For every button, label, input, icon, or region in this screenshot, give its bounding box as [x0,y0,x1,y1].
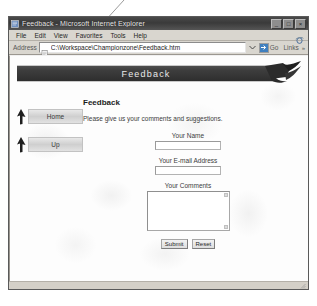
go-arrow-icon [259,43,269,53]
site-banner: Feedback [15,60,303,88]
email-field-label: Your E-mail Address [159,157,218,164]
feedback-form: Your Name Your E-mail Address Your Comme… [83,132,303,249]
close-button[interactable]: × [295,19,306,29]
window-title: Feedback - Microsoft Internet Explorer [22,20,271,27]
reset-button[interactable]: Reset [192,239,216,249]
nav-plate-up: Up [28,137,83,152]
nav-label-home: Home [47,113,64,120]
field-group-email: Your E-mail Address [155,157,221,175]
status-bar [9,281,308,289]
chevron-right-icon[interactable]: » [302,45,305,51]
address-label: Address [11,44,37,51]
page-title: Feedback [83,98,303,107]
links-label[interactable]: Links [283,44,298,51]
nav-button-up[interactable]: Up [15,136,83,153]
ie-document-icon [11,20,19,28]
window-controls: _ □ × [271,19,306,29]
menu-item-edit[interactable]: Edit [30,32,49,39]
submit-button[interactable]: Submit [161,239,188,249]
menu-item-tools[interactable]: Tools [106,32,129,39]
nav-plate-home: Home [28,109,83,124]
menu-bar: File Edit View Favorites Tools Help [9,30,308,41]
maximize-button[interactable]: □ [283,19,294,29]
email-input[interactable] [155,166,221,175]
address-bar: Address C:\Workspace\Championzone\Feedba… [9,41,308,55]
nav-label-up: Up [51,141,59,148]
nav-button-home[interactable]: Home [15,108,83,125]
nav-column: Home Up [15,94,83,164]
menu-item-view[interactable]: View [50,32,72,39]
page-document-icon [41,44,49,52]
minimize-icon: _ [275,21,278,27]
browser-window: Feedback - Microsoft Internet Explorer _… [8,16,309,290]
go-button[interactable]: Go [259,43,279,53]
name-field-label: Your Name [172,132,204,139]
up-arrow-icon [15,108,27,126]
banner-bar: Feedback [17,65,275,82]
field-group-name: Your Name [155,132,221,150]
menu-item-help[interactable]: Help [130,32,151,39]
title-bar[interactable]: Feedback - Microsoft Internet Explorer _… [9,17,308,30]
name-input[interactable] [155,141,221,150]
resize-grip-icon[interactable] [300,283,306,289]
page-viewport: Feedback [9,55,308,281]
comments-textarea[interactable] [147,191,230,231]
address-value: C:\Workspace\Championzone\Feedback.htm [51,44,244,51]
scroll-down-marker [224,225,228,229]
go-label: Go [270,44,279,51]
up-arrow-icon [15,136,27,154]
close-icon: × [299,21,303,27]
field-group-comments: Your Comments [147,182,230,231]
chevron-down-icon[interactable] [248,43,257,52]
ie-logo-icon [295,31,304,40]
page-intro-text: Please give us your comments and suggest… [83,115,303,122]
swoosh-graphic [263,60,303,88]
main-column: Feedback Please give us your comments an… [83,94,303,249]
scroll-up-marker [224,193,228,197]
banner-title: Feedback [121,69,170,79]
menu-item-favorites[interactable]: Favorites [72,32,107,39]
address-input[interactable]: C:\Workspace\Championzone\Feedback.htm [39,42,246,53]
page-body: Home Up Feedback Please g [15,94,303,249]
menu-item-file[interactable]: File [12,32,30,39]
comments-field-label: Your Comments [165,182,211,189]
form-buttons: Submit Reset [161,239,215,249]
page-content: Feedback [10,56,308,281]
maximize-icon: □ [287,21,291,27]
minimize-button[interactable]: _ [271,19,282,29]
